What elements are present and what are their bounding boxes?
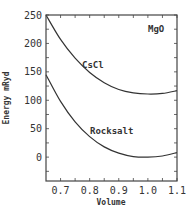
- y-tick-label: 0: [36, 152, 42, 163]
- x-tick-label: 0.7: [52, 185, 70, 196]
- x-tick-label: 0.8: [81, 185, 99, 196]
- x-tick-label: 0.9: [110, 185, 128, 196]
- x-axis-title: Volume: [97, 198, 126, 207]
- mgo-annotation: MgO: [148, 24, 165, 34]
- y-tick-label: 200: [24, 38, 42, 49]
- y-tick-label: 150: [24, 66, 42, 77]
- rocksalt-curve-label: Rocksalt: [90, 126, 133, 136]
- tick-labels: 0.70.80.91.01.1050100150200250: [24, 10, 186, 197]
- x-tick-label: 1.1: [168, 185, 186, 196]
- y-axis-title: Energy mRyd: [2, 71, 11, 124]
- csc1-curve-label: CsCl: [82, 60, 104, 70]
- energy-volume-chart: 0.70.80.91.01.1050100150200250 CsCl Rock…: [0, 0, 194, 215]
- y-tick-label: 50: [30, 123, 42, 134]
- x-tick-label: 1.0: [139, 185, 157, 196]
- y-tick-label: 100: [24, 95, 42, 106]
- y-tick-label: 250: [24, 10, 42, 21]
